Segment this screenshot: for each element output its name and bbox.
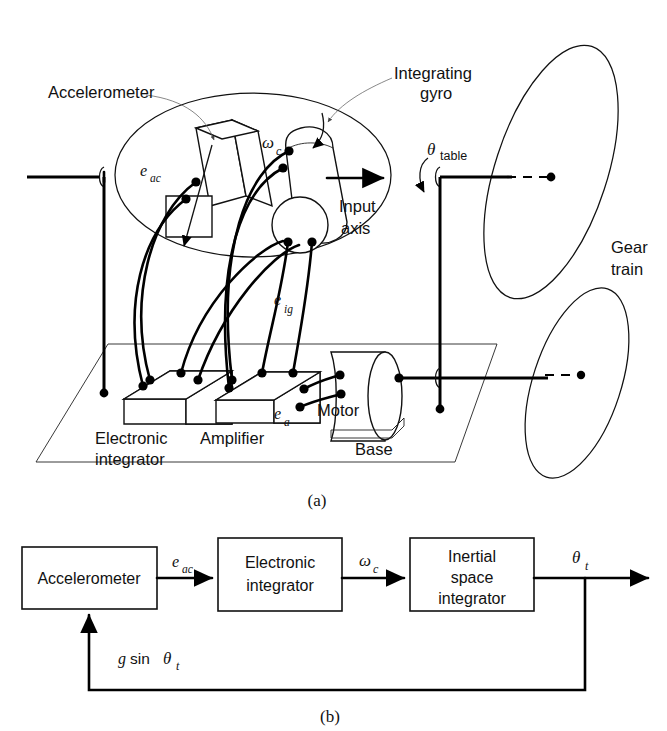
omega-c-base: ω xyxy=(262,133,274,152)
callout-leaders xyxy=(146,78,392,140)
omega-c-sub: c xyxy=(276,144,282,158)
terminal-dot xyxy=(181,194,190,203)
panel-b: Accelerometer Electronic integrator Iner… xyxy=(22,538,648,726)
block-electronic-integrator[interactable] xyxy=(218,538,342,611)
e-a-base: e xyxy=(274,405,281,422)
integrating-gyro-body xyxy=(272,113,347,253)
e-ac-base: e xyxy=(140,162,147,179)
left-post-foot xyxy=(100,389,109,398)
b-e-ac-base: e xyxy=(172,553,179,570)
terminal-dot xyxy=(145,375,154,384)
gear-train-label-line2: train xyxy=(611,260,643,278)
feedback-sin: sin xyxy=(130,650,150,667)
b-e-ac-sub: ac xyxy=(182,563,193,575)
terminal-dot xyxy=(336,389,345,398)
terminal-dot xyxy=(257,368,266,377)
e-ig-base: e xyxy=(274,291,281,308)
terminal-dot xyxy=(288,368,297,377)
theta-table-base: θ xyxy=(427,140,435,159)
terminal-dot xyxy=(176,368,185,377)
block-electronic-integrator-label-line1: Electronic xyxy=(245,554,315,571)
terminal-dot xyxy=(394,373,403,382)
block-inertial-space-integrator-label-line2: space xyxy=(451,569,494,586)
terminal-dot xyxy=(299,384,308,393)
signal-e-ac: e ac xyxy=(140,162,161,184)
input-axis-label-line1: Input xyxy=(339,197,376,215)
panel-b-signal-omega-c: ω c xyxy=(359,551,379,576)
terminal-dot xyxy=(224,383,233,392)
motor-label: Motor xyxy=(317,401,360,419)
feedback-theta: θ xyxy=(163,649,171,668)
signal-theta-table: θ table xyxy=(427,140,467,163)
b-omega-c-base: ω xyxy=(359,551,371,570)
gear-train-label-line1: Gear xyxy=(611,238,648,256)
terminal-dot xyxy=(191,177,200,186)
amplifier-label: Amplifier xyxy=(200,429,265,447)
terminal-dot xyxy=(193,375,202,384)
e-a-sub: a xyxy=(284,416,290,428)
panel-a: Accelerometer Integrating gyro Input axi… xyxy=(27,29,649,510)
terminal-dot xyxy=(227,375,236,384)
e-ig-sub: ig xyxy=(284,303,293,316)
schematic-svg: Accelerometer Integrating gyro Input axi… xyxy=(0,0,667,731)
terminal-dot xyxy=(295,402,304,411)
integrating-gyro-label-line1: Integrating xyxy=(394,64,472,82)
theta-table-sub: table xyxy=(440,149,467,163)
block-inertial-space-integrator-label-line3: integrator xyxy=(438,590,506,607)
block-electronic-integrator-label-line2: integrator xyxy=(246,577,314,594)
gear-lower-hub xyxy=(577,371,585,379)
motor-end-cap xyxy=(368,352,402,440)
block-inertial-space-integrator-label-line1: Inertial xyxy=(448,548,496,565)
panel-b-signal-e-ac: e ac xyxy=(172,553,193,575)
base-label: Base xyxy=(355,440,393,458)
b-omega-c-sub: c xyxy=(373,562,379,576)
signal-e-ig: e ig xyxy=(274,291,293,316)
feedback-g: g xyxy=(118,650,126,668)
block-accelerometer-label: Accelerometer xyxy=(37,570,141,587)
terminal-dot xyxy=(307,237,316,246)
signal-omega-c: ω c xyxy=(262,133,282,158)
feedback-sub: t xyxy=(176,659,180,673)
gear-axles xyxy=(507,173,585,380)
gear-lower xyxy=(505,275,650,491)
input-axis-label-line2: axis xyxy=(341,219,370,237)
right-bearing-support xyxy=(436,167,445,413)
terminal-dot xyxy=(284,146,293,155)
integrating-gyro-label-line2: gyro xyxy=(420,84,452,102)
panel-b-signal-theta-t: θ t xyxy=(572,548,589,573)
figure-root: Accelerometer Integrating gyro Input axi… xyxy=(0,0,667,731)
left-bearing-support xyxy=(100,167,109,397)
terminal-dot xyxy=(335,370,344,379)
panel-b-feedback-label: g sin θ t xyxy=(118,649,180,673)
b-theta-t-base: θ xyxy=(572,548,580,567)
electronic-integrator-label-line2: integrator xyxy=(95,450,165,468)
terminal-dot xyxy=(138,381,147,390)
panel-b-caption: (b) xyxy=(320,707,340,726)
terminal-dot xyxy=(278,163,287,172)
b-theta-t-sub: t xyxy=(585,559,589,573)
electronic-integrator-label-line1: Electronic xyxy=(95,429,167,447)
panel-a-caption: (a) xyxy=(308,491,327,510)
accelerometer-label: Accelerometer xyxy=(48,83,155,101)
gear-upper-hub xyxy=(547,173,556,182)
terminal-dot xyxy=(283,237,292,246)
theta-table-rotation-arrow xyxy=(420,158,428,192)
e-ac-sub: ac xyxy=(150,172,161,184)
integrating-gyro-leader xyxy=(328,78,392,122)
